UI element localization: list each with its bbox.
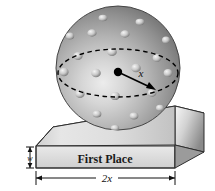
dimple <box>91 69 101 78</box>
width-label: 2x <box>102 172 113 184</box>
dimple <box>136 19 145 26</box>
thickness-arrow-down <box>28 163 33 168</box>
ball-center-dot <box>114 68 122 76</box>
dimple <box>162 36 170 43</box>
width-dimension: 2x <box>36 171 175 185</box>
dimple <box>87 29 96 36</box>
base-side-face <box>175 106 204 152</box>
dimple <box>59 68 68 76</box>
base-plate-text: First Place <box>78 152 134 166</box>
radius-label: x <box>138 67 144 79</box>
figure-container: First Place <box>0 0 215 191</box>
dimple <box>130 113 139 120</box>
width-arrow-right <box>169 176 175 181</box>
width-arrow-left <box>36 176 42 181</box>
dimple <box>120 30 129 37</box>
dimple <box>156 105 164 111</box>
thickness-dimension: w <box>26 147 34 168</box>
dimple <box>66 32 74 39</box>
thickness-arrow-up <box>28 147 33 152</box>
thickness-label: w <box>27 154 33 163</box>
golf-ball: x <box>56 6 180 131</box>
dimple <box>93 111 102 118</box>
diagram-canvas: First Place <box>0 0 215 191</box>
dimple <box>110 92 120 100</box>
dimple <box>164 69 173 77</box>
dimple <box>99 15 108 21</box>
